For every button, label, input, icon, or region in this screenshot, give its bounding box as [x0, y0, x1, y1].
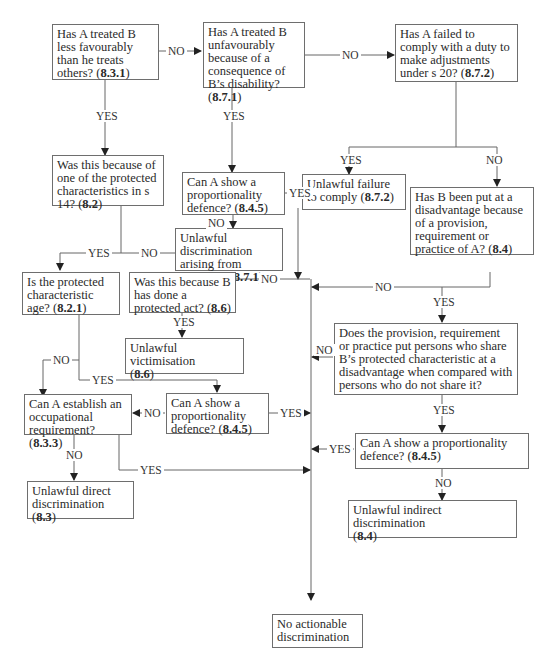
node-unlawful-arising-disability: Unlawful discrimination arising from dis…: [175, 228, 283, 271]
label-yes: YES: [94, 110, 120, 122]
node-unlawful-victimisation: Unlawful victimisation(8.6): [125, 338, 244, 374]
label-no: NO: [340, 49, 361, 61]
label-no: NO: [314, 344, 335, 356]
label-no: NO: [51, 354, 72, 366]
node-duty-adjustments: Has A failed to comply with a duty to ma…: [395, 24, 518, 82]
node-less-favourable: Has A treated B less favourably than he …: [52, 24, 159, 80]
label-yes: YES: [431, 404, 457, 416]
node-age: Is the protected characteristic age? (8.…: [22, 272, 120, 315]
label-no: NO: [139, 247, 160, 259]
label-yes: YES: [90, 374, 116, 386]
label-yes: YES: [327, 443, 353, 455]
label-no: NO: [433, 477, 454, 489]
label-no: NO: [142, 407, 163, 419]
label-yes: YES: [86, 247, 112, 259]
node-protected-characteristic: Was this because of one of the protected…: [52, 155, 164, 206]
label-yes: YES: [138, 464, 164, 476]
label-yes: YES: [171, 316, 197, 328]
label-no: NO: [373, 281, 394, 293]
node-provision-group-disadvantage: Does the provision, requirement or pract…: [334, 323, 518, 395]
node-unfavourable-disability: Has A treated B unfavourably because of …: [203, 22, 305, 88]
node-unlawful-direct: Unlawful direct discrimination (8.3): [27, 481, 134, 519]
label-no: NO: [166, 45, 187, 57]
label-yes: YES: [221, 110, 247, 122]
node-unlawful-indirect: Unlawful indirect discrimination(8.4): [348, 500, 517, 538]
node-proportionality-1: Can A show a proportionality defence? (8…: [182, 172, 285, 215]
label-no: NO: [259, 273, 280, 285]
node-proportionality-2: Can A show a proportionality defence? (8…: [166, 393, 269, 434]
label-no: NO: [206, 217, 227, 229]
label-yes: YES: [287, 187, 313, 199]
label-yes: YES: [278, 407, 304, 419]
label-yes: YES: [338, 154, 364, 166]
node-disadvantage-provision: Has B been put at a disadvantage because…: [410, 187, 534, 255]
label-no: NO: [64, 449, 85, 461]
node-no-actionable: No actionable discrimination: [272, 614, 363, 648]
label-yes: YES: [431, 296, 457, 308]
label-no: NO: [484, 154, 505, 166]
node-unlawful-failure-comply: Unlawful failure to comply (8.7.2): [302, 174, 406, 210]
node-proportionality-3: Can A show a proportionality defence? (8…: [355, 433, 529, 469]
node-protected-act: Was this because B has done a protected …: [129, 272, 236, 313]
node-occupational-requirement: Can A establish an occupational requirem…: [24, 394, 132, 435]
